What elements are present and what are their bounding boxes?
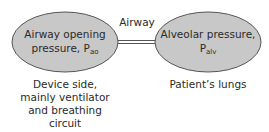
alveolar-pressure-label: Alveolar pressure, Palv: [155, 27, 261, 59]
caption-line: mainly ventilator: [5, 91, 125, 104]
caption-line: circuit: [5, 117, 125, 130]
airway-connector: [118, 41, 155, 44]
patient-lungs-caption: Patient’s lungs: [150, 78, 266, 91]
node-line1: Airway opening: [15, 27, 115, 41]
caption-line: Device side,: [5, 78, 125, 91]
subscript: alv: [206, 48, 216, 56]
node-line1: Alveolar pressure,: [155, 27, 261, 41]
airway-opening-pressure-label: Airway opening pressure, Pao: [15, 27, 115, 59]
subscript: ao: [90, 48, 99, 56]
device-side-caption: Device side, mainly ventilator and breat…: [5, 78, 125, 130]
node-line2: pressure, Pao: [15, 41, 115, 59]
caption-line: and breathing: [5, 104, 125, 117]
caption-line: Patient’s lungs: [150, 78, 266, 91]
airway-connector-label: Airway: [116, 16, 158, 29]
node-line2: Palv: [155, 41, 261, 59]
